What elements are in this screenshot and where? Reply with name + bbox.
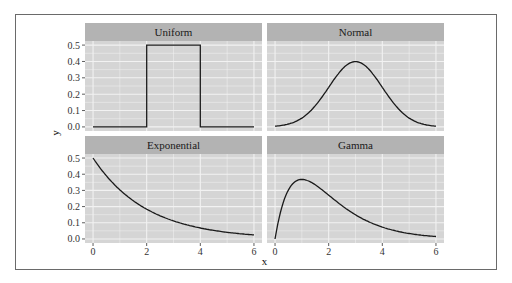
y-tick-label: 0.1 <box>68 217 81 228</box>
x-tick-label: 2 <box>326 246 331 257</box>
y-axis-title: y <box>49 130 61 136</box>
x-axis-title: x <box>262 255 268 267</box>
x-tick-label: 2 <box>144 246 149 257</box>
x-tick-label: 4 <box>380 246 385 257</box>
y-tick-label: 0.0 <box>68 233 81 244</box>
y-tick-label: 0.1 <box>68 105 81 116</box>
x-tick-label: 0 <box>91 246 96 257</box>
faceted-density-chart: Uniform0.00.10.20.30.40.5NormalExponenti… <box>0 0 512 283</box>
facet-title: Gamma <box>338 139 373 151</box>
facet-title: Normal <box>339 26 373 38</box>
panel-exponential: Exponential0.00.10.20.30.40.50246 <box>68 136 263 257</box>
x-tick-label: 6 <box>251 246 256 257</box>
panel-normal: Normal <box>267 23 444 131</box>
panel-uniform: Uniform0.00.10.20.30.40.5 <box>68 23 263 132</box>
x-tick-label: 4 <box>198 246 203 257</box>
x-tick-label: 0 <box>273 246 278 257</box>
y-tick-label: 0.0 <box>68 121 81 132</box>
x-tick-label: 6 <box>433 246 438 257</box>
y-tick-label: 0.2 <box>68 201 81 212</box>
y-tick-label: 0.5 <box>68 40 81 51</box>
facet-title: Uniform <box>155 26 193 38</box>
y-tick-label: 0.4 <box>68 56 81 67</box>
y-tick-label: 0.3 <box>68 185 81 196</box>
y-tick-label: 0.2 <box>68 89 81 100</box>
y-tick-label: 0.5 <box>68 153 81 164</box>
facet-title: Exponential <box>147 139 200 151</box>
y-tick-label: 0.4 <box>68 169 81 180</box>
panel-gamma: Gamma0246 <box>267 136 444 257</box>
y-tick-label: 0.3 <box>68 72 81 83</box>
